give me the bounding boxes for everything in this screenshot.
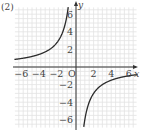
hyperbola-chart: −6−4−2246642−2−4−6 x y O (2)	[0, 0, 141, 133]
x-axis-label: x	[134, 68, 140, 79]
chart-canvas: −6−4−2246642−2−4−6 x y O (2)	[0, 0, 141, 133]
curve-branch-right	[84, 75, 138, 127]
y-tick-label: 6	[67, 9, 73, 20]
x-tick-label: 2	[91, 68, 97, 79]
y-axis-label: y	[77, 0, 84, 10]
y-tick-label: −6	[59, 114, 73, 125]
origin-label: O	[68, 68, 76, 79]
x-tick-label: −4	[32, 68, 46, 79]
problem-number-label: (2)	[1, 2, 14, 12]
y-tick-label: −4	[59, 97, 73, 108]
y-tick-label: −2	[59, 79, 73, 90]
curve-branch-left	[14, 7, 68, 59]
x-tick-label: −2	[49, 68, 63, 79]
x-tick-label: −6	[14, 68, 28, 79]
x-tick-label: 4	[108, 68, 114, 79]
x-tick-label: 6	[126, 68, 132, 79]
y-tick-label: 2	[67, 44, 73, 55]
y-tick-label: 4	[67, 26, 73, 37]
